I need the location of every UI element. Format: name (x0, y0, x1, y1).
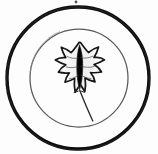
scan-speck (75, 1, 78, 4)
emblem-artwork (0, 0, 158, 154)
emblem-canvas: Circular leaf emblem (0, 0, 158, 154)
